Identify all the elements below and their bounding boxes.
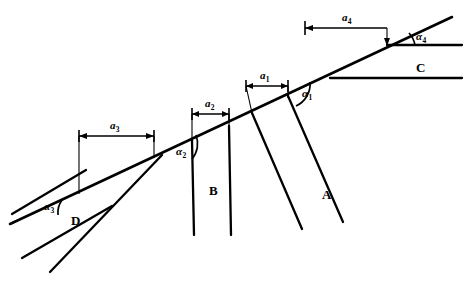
angle-label-alpha2: α2 bbox=[176, 146, 186, 157]
a1-extension-left bbox=[246, 86, 252, 113]
a3-arrow-right bbox=[146, 133, 154, 139]
block-label-c: C bbox=[416, 61, 425, 74]
a1-arrow-left bbox=[246, 83, 253, 89]
a2-arrow-right bbox=[222, 111, 229, 117]
dimension-label-a3: a3 bbox=[110, 120, 119, 131]
block-d-second-lower-edge bbox=[50, 155, 162, 272]
a3-arrow-left bbox=[79, 133, 87, 139]
block-label-a: A bbox=[322, 188, 331, 201]
a1-arrow-right bbox=[281, 83, 288, 89]
angle-label-alpha4-sub: 4 bbox=[422, 36, 426, 45]
block-b-left-edge bbox=[192, 140, 194, 235]
dimension-label-a4: a4 bbox=[342, 12, 351, 23]
block-label-b: B bbox=[209, 184, 218, 197]
a2-arrow-left bbox=[192, 111, 199, 117]
dimension-label-a2-base: a bbox=[205, 97, 211, 109]
dimension-label-a2: a2 bbox=[205, 98, 214, 109]
block-a-left-edge bbox=[252, 113, 302, 229]
dimension-label-a4-base: a bbox=[342, 11, 348, 23]
angle-label-alpha3-sub: 3 bbox=[50, 206, 54, 215]
dimension-label-a1: a1 bbox=[260, 70, 269, 81]
block-a-right-edge bbox=[288, 96, 343, 222]
a4-arrow-left bbox=[305, 25, 313, 31]
angle-label-alpha2-sub: 2 bbox=[182, 151, 186, 160]
dimension-label-a3-base: a bbox=[110, 119, 116, 131]
dimension-label-a3-sub: 3 bbox=[116, 125, 120, 134]
diagram-canvas: A B C D a1 a2 a3 a4 α1 α2 α3 α4 bbox=[0, 0, 470, 295]
block-label-d: D bbox=[71, 214, 80, 227]
dimension-label-a2-sub: 2 bbox=[211, 103, 215, 112]
angle-label-alpha4: α4 bbox=[416, 31, 426, 42]
angle-label-alpha1: α1 bbox=[302, 88, 312, 99]
dimension-label-a1-sub: 1 bbox=[266, 75, 270, 84]
angle-label-alpha3: α3 bbox=[44, 201, 54, 212]
block-diagram-svg bbox=[0, 0, 470, 295]
block-d-lower-edge bbox=[22, 206, 112, 258]
angle-label-alpha1-sub: 1 bbox=[308, 93, 312, 102]
dimension-label-a4-sub: 4 bbox=[348, 17, 352, 26]
dimension-label-a1-base: a bbox=[260, 69, 266, 81]
block-b-right-edge bbox=[229, 126, 231, 235]
